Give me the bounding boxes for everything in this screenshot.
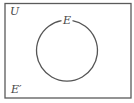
- set-e-label: E: [62, 14, 71, 27]
- complement-label: E′: [10, 83, 22, 96]
- universal-set-label: U: [10, 5, 20, 18]
- venn-diagram: U E E′: [0, 0, 134, 103]
